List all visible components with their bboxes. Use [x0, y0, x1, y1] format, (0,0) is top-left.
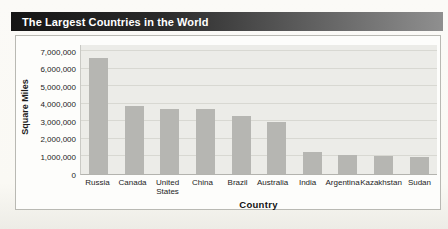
x-tick-label-india: India	[290, 178, 325, 196]
bar-slot-canada	[117, 45, 153, 174]
x-axis-tick-labels: RussiaCanadaUnited StatesChinaBrazilAust…	[80, 178, 437, 196]
bar-slot-sudan	[401, 45, 437, 174]
bar-russia	[89, 58, 108, 174]
bar-slot-australia	[259, 45, 295, 174]
page: The Largest Countries in the World 01,00…	[0, 0, 448, 229]
bar-slot-china	[188, 45, 224, 174]
y-tick-label: 6,000,000	[16, 65, 76, 74]
y-axis-title: Square Miles	[20, 77, 30, 137]
bar-slot-brazil	[223, 45, 259, 174]
chart-frame: 01,000,0002,000,0003,000,0004,000,0005,0…	[15, 35, 441, 210]
bar-canada	[125, 106, 144, 174]
x-tick-label-brazil: Brazil	[220, 178, 255, 196]
x-tick-label-kazakhstan: Kazakhstan	[360, 178, 402, 196]
x-tick-label-argentina: Argentina	[325, 178, 360, 196]
bar-brazil	[232, 116, 251, 174]
chart-title: The Largest Countries in the World	[11, 16, 209, 28]
bars	[81, 45, 437, 174]
bar-slot-kazakhstan	[366, 45, 402, 174]
bar-slot-argentina	[330, 45, 366, 174]
y-tick-label: 7,000,000	[16, 48, 76, 57]
x-tick-label-russia: Russia	[80, 178, 115, 196]
bar-slot-russia	[81, 45, 117, 174]
bar-sudan	[410, 157, 429, 174]
bar-india	[303, 152, 322, 174]
bar-australia	[267, 122, 286, 174]
plot-area	[80, 45, 437, 175]
x-tick-label-sudan: Sudan	[402, 178, 437, 196]
chart-title-bar: The Largest Countries in the World	[11, 12, 443, 31]
x-tick-label-united-states: United States	[150, 178, 185, 196]
x-tick-label-canada: Canada	[115, 178, 150, 196]
bar-kazakhstan	[374, 156, 393, 174]
x-axis-title: Country	[80, 199, 437, 210]
bar-slot-india	[295, 45, 331, 174]
bar-slot-united-states	[152, 45, 188, 174]
bar-united-states	[160, 109, 179, 174]
bar-argentina	[338, 155, 357, 174]
bar-china	[196, 109, 215, 174]
x-tick-label-australia: Australia	[255, 178, 290, 196]
x-tick-label-china: China	[185, 178, 220, 196]
y-tick-label: 1,000,000	[16, 153, 76, 162]
y-tick-label: 0	[16, 171, 76, 180]
